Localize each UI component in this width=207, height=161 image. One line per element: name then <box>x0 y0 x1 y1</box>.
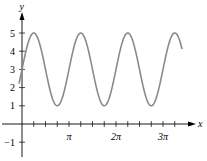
y-axis-label: y <box>19 1 25 12</box>
y-tick-label: 1 <box>10 100 15 111</box>
y-tick-label: 5 <box>10 28 15 39</box>
x-tick-label: π <box>66 131 72 142</box>
chart: x y π2π3π−112345 <box>0 0 207 161</box>
y-tick-label: 2 <box>10 82 15 93</box>
x-tick-label: 2π <box>111 131 122 142</box>
axes: x y <box>2 1 203 157</box>
y-tick-label: 3 <box>10 64 15 75</box>
x-tick-label: 3π <box>157 131 169 142</box>
y-tick-label: −1 <box>4 137 15 148</box>
y-axis-arrow-icon <box>20 12 25 20</box>
y-tick-label: 4 <box>10 46 15 57</box>
x-axis-arrow-icon <box>188 122 196 127</box>
sine-curve <box>19 33 182 106</box>
x-axis-label: x <box>197 118 203 129</box>
